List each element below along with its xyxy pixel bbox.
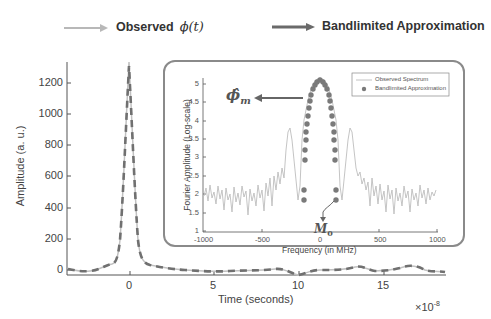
inset-xtick-1000: 1000 [429, 235, 446, 244]
inset-ytick-5: 5 [195, 79, 199, 88]
phi-m-annotation: ϕ̂m [226, 86, 251, 106]
inset-xtick-neg1000: -1000 [194, 235, 213, 244]
inset-legend-marker-icon [362, 87, 366, 91]
m0-arrow-line [323, 201, 334, 218]
m0-subscript: 0 [327, 228, 333, 238]
inset-xlabel: Frequency (in MHz) [282, 245, 357, 255]
inset-x-ticks [262, 229, 437, 232]
inset-ytick-1: 1 [195, 226, 199, 235]
phi-hat-symbol: ϕ̂ [226, 86, 240, 104]
phi-m-arrow-icon [254, 94, 262, 102]
inset-xtick-500: 500 [374, 235, 387, 244]
inset-y-ticks [203, 84, 206, 231]
m0-annotation: M0 [314, 222, 333, 238]
inset-plot [0, 0, 491, 319]
inset-xtick-0: 0 [318, 235, 322, 244]
bandlimited-markers [301, 77, 338, 202]
inset-xtick-neg500: -500 [255, 235, 270, 244]
phi-m-subscript: m [240, 95, 251, 106]
inset-ytick-2: 2 [195, 189, 199, 198]
inset-ylabel: Fourier Amplitude (Log-scale) [182, 90, 192, 220]
inset-ytick-3: 3 [195, 152, 199, 161]
inset-ytick-4: 4 [195, 116, 199, 125]
m-symbol: M [314, 222, 327, 236]
inset-legend-observed: Observed Spectrum [375, 76, 428, 82]
inset-legend-bandlimited: Bandlimited Approximation [375, 85, 446, 91]
